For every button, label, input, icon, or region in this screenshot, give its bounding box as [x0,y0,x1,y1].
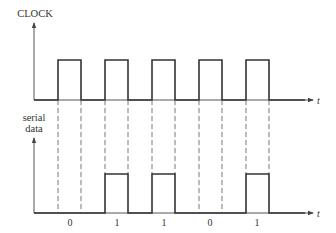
bit-labels: 0 1 1 0 1 [68,217,260,228]
bit-label: 1 [162,217,167,228]
serial-data-label-line2: data [25,123,43,134]
serial-data-waveform [34,174,305,213]
bit-label: 0 [68,217,73,228]
serial-time-axis-label: t [317,208,320,219]
clock-edge-guides [58,100,269,213]
bit-label: 1 [115,217,120,228]
clock-time-axis-label: t [317,95,320,106]
clock-label: CLOCK [17,8,53,19]
timing-diagram: CLOCK t serial data t 0 1 1 0 1 [0,0,336,233]
bit-label: 1 [255,217,260,228]
clock-waveform [34,60,305,100]
serial-data-label-line1: serial [23,112,46,123]
bit-label: 0 [208,217,213,228]
